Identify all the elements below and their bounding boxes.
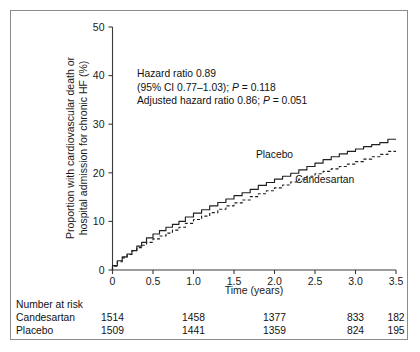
risk-row-value: 1359 — [263, 325, 286, 336]
risk-row-value: 182 — [387, 312, 404, 323]
annotation-line-2: (95% CI 0.77–1.03); P = 0.118 — [137, 82, 276, 93]
x-tick-label: 0.5 — [146, 275, 161, 287]
annotation-line-2-prefix: (95% CI 0.77–1.03); — [137, 82, 232, 93]
risk-table: Number at risk Candesartan15141458137783… — [16, 299, 405, 336]
kaplan-meier-chart: 01020304050 00.51.01.52.02.53.03.5 Time … — [0, 0, 420, 352]
risk-row-value: 1377 — [263, 312, 286, 323]
y-tick-label: 30 — [93, 118, 105, 130]
y-axis-title: Proportion with cardiovascular death or … — [64, 56, 89, 239]
risk-row-value: 824 — [347, 325, 364, 336]
x-tick-label: 3.5 — [389, 275, 404, 287]
x-tick-label: 3.0 — [348, 275, 363, 287]
statistics-annotation: Hazard ratio 0.89 (95% CI 0.77–1.03); P … — [137, 68, 308, 106]
y-axis: 01020304050 — [93, 21, 113, 276]
y-axis-title-line2: hospital admission for chronic HF (%) — [77, 61, 89, 235]
risk-row-value: 1441 — [182, 325, 205, 336]
annotation-line-1: Hazard ratio 0.89 — [137, 68, 216, 79]
y-tick-label: 10 — [93, 215, 105, 227]
annotation-line-3-prefix: Adjusted hazard ratio 0.86; — [137, 95, 263, 106]
y-axis-title-line1: Proportion with cardiovascular death or — [64, 56, 76, 239]
annotation-line-2-suffix: = 0.118 — [239, 82, 276, 93]
risk-row-value: 1509 — [101, 325, 124, 336]
y-tick-label: 0 — [99, 264, 105, 276]
risk-row-label: Placebo — [16, 325, 53, 336]
x-axis-title: Time (years) — [225, 284, 284, 296]
x-tick-label: 0 — [110, 275, 116, 287]
chart-svg: 01020304050 00.51.01.52.02.53.03.5 Time … — [0, 0, 420, 352]
y-tick-group: 01020304050 — [93, 21, 113, 276]
curve-placebo — [113, 139, 397, 270]
y-tick-label: 50 — [93, 21, 105, 33]
annotation-line-3: Adjusted hazard ratio 0.86; P = 0.051 — [137, 95, 308, 106]
x-tick-label: 2.5 — [308, 275, 323, 287]
series-label-placebo: Placebo — [256, 149, 293, 160]
x-tick-label: 1.0 — [186, 275, 201, 287]
risk-table-title: Number at risk — [16, 299, 84, 310]
risk-row-value: 1514 — [101, 312, 124, 323]
risk-table-rows: Candesartan151414581377833182Placebo1509… — [16, 312, 405, 336]
y-tick-label: 40 — [93, 69, 105, 81]
risk-row-value: 1458 — [182, 312, 205, 323]
y-tick-label: 20 — [93, 167, 105, 179]
risk-row-value: 833 — [347, 312, 364, 323]
annotation-line-3-suffix: = 0.051 — [270, 95, 308, 106]
risk-row-value: 195 — [387, 325, 404, 336]
series-label-candesartan: Candesartan — [295, 174, 354, 185]
risk-row-label: Candesartan — [16, 312, 75, 323]
curve-candesartan — [113, 151, 397, 270]
